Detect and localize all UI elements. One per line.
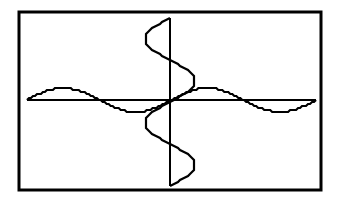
graph-screen bbox=[0, 0, 340, 202]
graph-plot bbox=[0, 0, 340, 202]
